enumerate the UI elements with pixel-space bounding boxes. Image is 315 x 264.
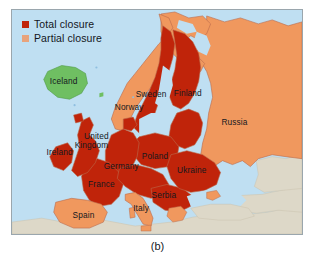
- label-sweden: Sweden: [136, 89, 167, 99]
- isle-marker-2: [73, 104, 75, 106]
- figure-caption: (b): [0, 240, 315, 252]
- label-italy: Italy: [133, 203, 150, 213]
- label-ukraine: Ukraine: [177, 165, 207, 175]
- legend-swatch-partial-closure: [22, 35, 29, 42]
- label-germany: Germany: [104, 161, 140, 171]
- legend-swatch-total-closure: [22, 21, 29, 28]
- country-scotland-isles[interactable]: [74, 113, 84, 123]
- label-finland: Finland: [174, 88, 202, 98]
- label-spain: Spain: [73, 210, 95, 220]
- country-russia[interactable]: [197, 16, 302, 167]
- label-russia: Russia: [221, 117, 247, 127]
- isle-marker-3: [132, 96, 134, 98]
- figure-panel: Iceland Norway Sweden Finland Russia Uni…: [0, 0, 315, 264]
- label-france: France: [88, 179, 115, 189]
- label-united-kingdom-line2: Kingdom: [75, 140, 109, 150]
- label-serbia: Serbia: [152, 190, 177, 200]
- legend-item-total-closure[interactable]: Total closure: [22, 18, 102, 31]
- landmass-caucasus-caspian: [254, 155, 302, 193]
- legend-item-partial-closure[interactable]: Partial closure: [22, 32, 102, 45]
- label-iceland: Iceland: [50, 76, 78, 86]
- label-ireland: Ireland: [47, 147, 73, 157]
- label-poland: Poland: [142, 151, 169, 161]
- isle-marker-1: [95, 66, 97, 68]
- island-sicily[interactable]: [141, 225, 151, 231]
- legend-label-total-closure: Total closure: [34, 19, 94, 30]
- legend-label-partial-closure: Partial closure: [34, 33, 102, 44]
- map-legend: Total closure Partial closure: [22, 18, 102, 46]
- europe-map[interactable]: Iceland Norway Sweden Finland Russia Uni…: [11, 9, 303, 235]
- label-norway: Norway: [115, 102, 145, 112]
